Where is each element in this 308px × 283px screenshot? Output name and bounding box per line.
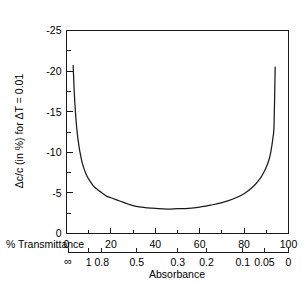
x-tick-label-absorbance: 0 bbox=[286, 256, 292, 268]
x-tick-label-transmittance: 80 bbox=[238, 238, 250, 250]
x-tick-label-absorbance: 0.05 bbox=[254, 256, 275, 268]
x-tick-label-absorbance: 1 bbox=[86, 256, 92, 268]
y-tick-label: -5 bbox=[52, 187, 61, 199]
chart-svg: -25-20-15-10-50 Δc/c (in %) for ΔT = 0.0… bbox=[0, 0, 308, 283]
x-tick-label-absorbance: 0.3 bbox=[170, 256, 185, 268]
x-axis-title-transmittance: % Transmittance bbox=[6, 238, 84, 250]
x-axis-absorbance: ∞10.80.50.30.20.10.050 bbox=[64, 248, 291, 268]
y-tick-label: -25 bbox=[46, 24, 61, 36]
x-tick-label-absorbance: ∞ bbox=[64, 255, 72, 267]
y-tick-label: -15 bbox=[46, 106, 61, 118]
x-tick-label-absorbance: 0.5 bbox=[129, 256, 144, 268]
plot-frame bbox=[67, 31, 289, 234]
y-axis: -25-20-15-10-50 bbox=[46, 24, 72, 239]
x-tick-label-absorbance: 0.8 bbox=[94, 256, 109, 268]
x-tick-label-transmittance: 40 bbox=[149, 238, 161, 250]
plot-border bbox=[67, 31, 289, 234]
error-curve bbox=[73, 65, 275, 209]
x-axis-transmittance: 020406080100 bbox=[64, 228, 298, 250]
x-axis-title-absorbance: Absorbance bbox=[149, 268, 205, 280]
x-tick-label-transmittance: 60 bbox=[194, 238, 206, 250]
y-axis-title: Δc/c (in %) for ΔT = 0.01 bbox=[13, 74, 25, 189]
y-tick-label: -20 bbox=[46, 65, 61, 77]
photometric-error-chart: -25-20-15-10-50 Δc/c (in %) for ΔT = 0.0… bbox=[0, 0, 308, 283]
x-tick-label-absorbance: 0.1 bbox=[236, 256, 251, 268]
x-tick-label-transmittance: 20 bbox=[105, 238, 117, 250]
x-tick-label-absorbance: 0.2 bbox=[199, 256, 214, 268]
y-tick-label: -10 bbox=[46, 146, 61, 158]
